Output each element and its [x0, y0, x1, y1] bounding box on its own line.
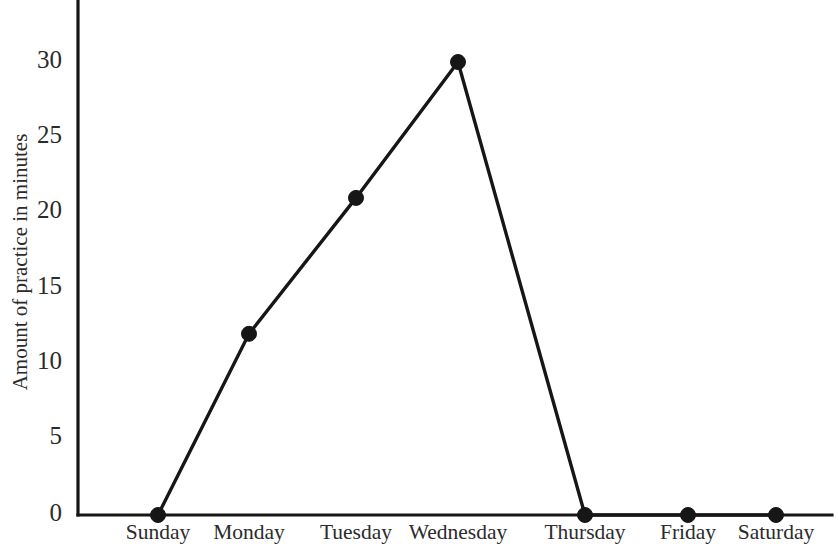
data-point-marker — [451, 55, 466, 70]
y-tick-label: 20 — [37, 196, 62, 223]
x-tick-label: Saturday — [738, 520, 815, 544]
y-axis-title-group: Amount of practice in minutes — [8, 134, 32, 391]
x-tick-label: Wednesday — [409, 520, 508, 544]
data-point-marker — [349, 190, 364, 205]
y-tick-label: 0 — [50, 499, 63, 526]
y-tick-label: 25 — [37, 121, 62, 148]
data-point-marker — [242, 326, 257, 341]
y-tick-label: 10 — [37, 347, 62, 374]
x-tick-label: Friday — [660, 520, 716, 544]
data-point-group — [151, 55, 784, 523]
x-tick-label: Tuesday — [320, 520, 392, 544]
y-tick-label: 15 — [37, 272, 62, 299]
chart-canvas: Amount of practice in minutes 0510152025… — [0, 0, 839, 556]
x-tick-label: Monday — [213, 520, 285, 544]
y-tick-label: 30 — [37, 46, 62, 73]
line-chart: Amount of practice in minutes 0510152025… — [0, 0, 839, 556]
x-tick-label-group: SundayMondayTuesdayWednesdayThursdayFrid… — [126, 520, 815, 544]
y-tick-label-group: 051015202530 — [37, 46, 62, 526]
x-tick-label: Thursday — [544, 520, 625, 544]
axis-group — [78, 0, 832, 515]
data-series-line — [158, 62, 776, 515]
x-tick-label: Sunday — [126, 520, 191, 544]
y-axis-title: Amount of practice in minutes — [8, 134, 32, 391]
y-tick-label: 5 — [50, 422, 63, 449]
